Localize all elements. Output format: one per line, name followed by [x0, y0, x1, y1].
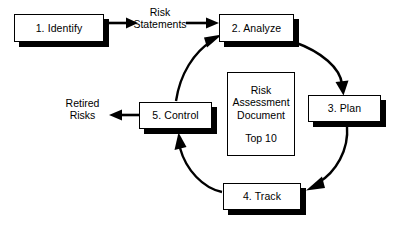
document-line-top-10: Top 10: [245, 132, 277, 144]
process-box-plan[interactable]: 3. Plan: [308, 95, 381, 122]
process-box-plan-label: 3. Plan: [328, 103, 361, 114]
process-box-analyze[interactable]: 2. Analyze: [219, 14, 294, 42]
process-box-control-label: 5. Control: [152, 110, 199, 121]
process-box-identify[interactable]: 1. Identify: [14, 14, 104, 42]
document-line-document: Document: [237, 109, 285, 121]
connector-control-to-analyze: [176, 35, 222, 102]
connector-track-to-control: [175, 133, 223, 193]
flow-label-retired-risks-line1: Retired: [55, 97, 110, 109]
risk-management-cycle-diagram: 1. Identify 2. Analyze 3. Plan 4. Track …: [0, 0, 402, 229]
connector-plan-to-track: [306, 126, 347, 191]
document-line-risk: Risk: [251, 84, 271, 96]
process-box-identify-label: 1. Identify: [36, 23, 83, 34]
connector-analyze-to-plan: [294, 42, 349, 96]
flow-label-retired-risks-line2: Risks: [55, 109, 110, 121]
risk-assessment-document-box[interactable]: Risk Assessment Document Top 10: [227, 72, 295, 156]
process-box-track-label: 4. Track: [243, 191, 281, 202]
process-box-track[interactable]: 4. Track: [223, 183, 301, 210]
process-box-control[interactable]: 5. Control: [139, 102, 212, 129]
process-box-analyze-label: 2. Analyze: [232, 23, 281, 34]
flow-label-retired-risks: Retired Risks: [55, 97, 110, 121]
document-line-assessment: Assessment: [232, 96, 289, 108]
flow-label-risk-statements: Risk Statements: [126, 6, 194, 30]
connector-control-to-retired-risks: [109, 110, 139, 121]
flow-label-risk-statements-line1: Risk: [126, 6, 194, 18]
flow-label-risk-statements-line2: Statements: [126, 18, 194, 30]
